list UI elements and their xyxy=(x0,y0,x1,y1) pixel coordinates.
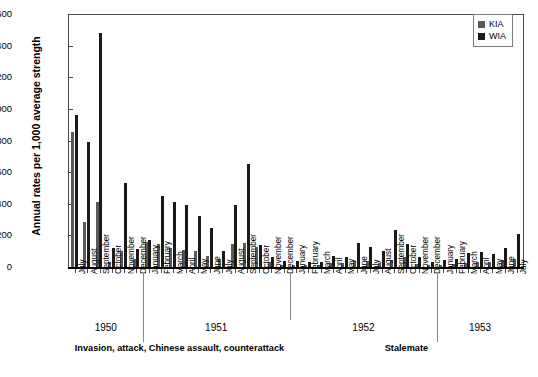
bar-group xyxy=(280,15,288,268)
bar-group xyxy=(329,15,337,268)
x-month-label: October xyxy=(115,245,123,274)
x-tick-mark xyxy=(480,269,481,273)
x-month-label: May xyxy=(496,259,504,274)
bar-group xyxy=(366,15,374,268)
x-month-label: January xyxy=(152,245,160,274)
legend-item-wia: WIA xyxy=(478,31,506,42)
x-tick-mark xyxy=(443,269,444,273)
x-tick-mark xyxy=(431,269,432,273)
bar-group xyxy=(231,15,239,268)
bar-group xyxy=(501,15,509,268)
x-month-label: December xyxy=(434,236,442,274)
x-month-label: July xyxy=(520,259,528,274)
bars-layer xyxy=(69,15,523,268)
bar-group xyxy=(439,15,447,268)
y-tick-label: 1,400 xyxy=(0,41,12,51)
bar-group xyxy=(120,15,128,268)
x-tick-mark xyxy=(247,269,248,273)
x-tick-mark xyxy=(370,269,371,273)
x-month-label: April xyxy=(336,258,344,274)
x-month-label: July xyxy=(226,259,234,274)
x-month-label: February xyxy=(312,241,320,274)
x-month-label: May xyxy=(348,259,356,274)
x-tick-mark xyxy=(222,269,223,273)
x-month-label: January xyxy=(299,245,307,274)
x-tick-mark xyxy=(271,269,272,273)
phase-label-stalemate: Stalemate xyxy=(290,343,523,354)
year-label: 1953 xyxy=(437,322,523,333)
year-label: 1950 xyxy=(69,322,143,333)
legend-label-wia: WIA xyxy=(489,32,506,41)
x-tick-mark xyxy=(161,269,162,273)
bar-group xyxy=(292,15,300,268)
x-tick-mark xyxy=(321,269,322,273)
x-tick-mark xyxy=(296,269,297,273)
x-month-label: November xyxy=(128,236,136,274)
y-tick-label: 400 xyxy=(0,199,12,209)
bar-group xyxy=(96,15,104,268)
bar-group xyxy=(157,15,165,268)
y-tick-label: 800 xyxy=(0,136,12,146)
x-tick-mark xyxy=(136,269,137,273)
x-tick-mark xyxy=(149,269,150,273)
bar-group xyxy=(133,15,141,268)
x-tick-mark xyxy=(75,269,76,273)
x-tick-mark xyxy=(100,269,101,273)
x-tick-mark xyxy=(186,269,187,273)
x-month-label: July xyxy=(79,259,87,274)
x-tick-mark xyxy=(112,269,113,273)
bar-wia xyxy=(75,115,78,268)
y-tick-label: 1,600 xyxy=(0,9,12,19)
bar-kia xyxy=(71,132,74,268)
x-tick-mark xyxy=(87,269,88,273)
x-tick-mark xyxy=(357,269,358,273)
bar-group xyxy=(268,15,276,268)
x-tick-mark xyxy=(468,269,469,273)
x-tick-mark xyxy=(382,269,383,273)
x-tick-mark xyxy=(505,269,506,273)
x-month-label: April xyxy=(189,258,197,274)
x-month-label: September xyxy=(103,234,111,274)
x-tick-mark xyxy=(333,269,334,273)
x-month-label: April xyxy=(483,258,491,274)
x-tick-mark xyxy=(345,269,346,273)
x-tick-mark xyxy=(456,269,457,273)
bar-group xyxy=(169,15,177,268)
legend: KIA WIA xyxy=(473,14,513,47)
bar-group xyxy=(83,15,91,268)
x-month-label: March xyxy=(177,251,185,274)
legend-swatch-wia xyxy=(478,33,485,40)
bar-group xyxy=(108,15,116,268)
x-month-label: December xyxy=(287,236,295,274)
x-month-label: March xyxy=(324,251,332,274)
bar-group xyxy=(206,15,214,268)
y-tick-label: 1,000 xyxy=(0,104,12,114)
legend-item-kia: KIA xyxy=(478,19,506,30)
bar-group xyxy=(415,15,423,268)
x-tick-mark xyxy=(394,269,395,273)
bar-group xyxy=(341,15,349,268)
bar-group xyxy=(513,15,521,268)
bar-group xyxy=(243,15,251,268)
x-tick-mark xyxy=(235,269,236,273)
x-month-label: October xyxy=(263,245,271,274)
legend-label-kia: KIA xyxy=(489,20,504,29)
x-month-label: December xyxy=(140,236,148,274)
bar-wia xyxy=(99,33,102,268)
bar-group xyxy=(378,15,386,268)
x-month-label: November xyxy=(275,236,283,274)
y-axis-title: Annual rates per 1,000 average strength xyxy=(30,8,42,264)
year-label: 1951 xyxy=(143,322,290,333)
bar-group xyxy=(488,15,496,268)
x-month-label: June xyxy=(508,256,516,274)
year-label: 1952 xyxy=(290,322,437,333)
y-tick-label: 0 xyxy=(0,262,12,272)
bar-group xyxy=(464,15,472,268)
bar-group xyxy=(390,15,398,268)
x-month-label: February xyxy=(459,241,467,274)
y-tick-label: 200 xyxy=(0,230,12,240)
x-month-label: August xyxy=(238,249,246,275)
x-tick-mark xyxy=(284,269,285,273)
bar-group xyxy=(317,15,325,268)
x-month-label: August xyxy=(385,249,393,275)
